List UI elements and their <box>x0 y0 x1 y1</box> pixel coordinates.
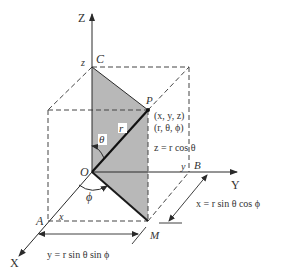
z-axis-label: Z <box>78 11 85 25</box>
phi-arc <box>79 185 107 190</box>
phi-label: ϕ <box>86 190 92 204</box>
x-equation: x = r sin θ cos ϕ <box>196 198 260 209</box>
spherical-coordinates-diagram: Z Y X C z P O B y A x M (x, y, z) (r, θ,… <box>0 0 282 280</box>
point-o-label: O <box>80 165 89 179</box>
point-p-dot <box>146 108 150 112</box>
point-b-label: B <box>194 159 201 171</box>
p-spherical-coords: (r, θ, ϕ) <box>154 122 184 134</box>
dashed-edge-p-topright <box>148 67 189 110</box>
y-tick-label: y <box>180 161 186 172</box>
dashed-edge-m-b <box>148 172 189 221</box>
y-dimension-tick-right <box>132 227 146 244</box>
point-c-label: C <box>96 52 105 66</box>
x-axis <box>19 172 92 256</box>
z-tick-label: z <box>80 57 85 68</box>
x-axis-label: X <box>10 256 19 270</box>
x-tick-label: x <box>58 211 64 222</box>
point-p-label: P <box>145 94 153 106</box>
theta-label: θ <box>99 133 105 145</box>
point-a-label: A <box>35 214 44 228</box>
p-cartesian-coords: (x, y, z) <box>154 110 184 122</box>
point-m-label: M <box>149 229 160 241</box>
z-equation: z = r cos θ <box>154 142 196 153</box>
r-label: r <box>119 122 124 134</box>
dashed-edge-c-backleft <box>48 67 92 110</box>
y-axis-label: Y <box>231 178 240 192</box>
y-equation: y = r sin θ sin ϕ <box>47 249 109 260</box>
